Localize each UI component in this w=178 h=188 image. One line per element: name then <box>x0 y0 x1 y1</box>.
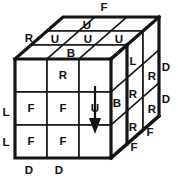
rubiks-cube-figure: R F F U F F U U U U B L R R R R B F R D … <box>0 0 178 188</box>
front-cell-r2c1: F <box>27 102 34 114</box>
edge-label-left-l-upper: L <box>2 106 9 118</box>
edge-label-bottom-d-right: D <box>55 164 63 176</box>
top-cell-r2c2: U <box>84 33 92 45</box>
right-cell-r2c2: R <box>148 103 157 115</box>
top-cell-r2c1: U <box>51 33 59 45</box>
cube-drawing: R F F U F F U U U U B L R R R R B F R D … <box>0 0 178 188</box>
edge-label-left-l-lower: L <box>2 136 9 148</box>
right-inner-cell-b: B <box>113 97 121 109</box>
right-cell-r2c1: R <box>129 88 138 100</box>
front-cell-r2c2: F <box>59 102 66 114</box>
front-cell-r3c2: F <box>59 135 66 147</box>
top-cell-r2c3: U <box>115 33 123 45</box>
front-cell-r1c2: R <box>59 69 68 81</box>
edge-label-lower-right-f-up: F <box>146 126 153 138</box>
right-cell-r1c1: L <box>129 55 136 67</box>
edge-label-lower-right-f-lo: F <box>130 141 137 153</box>
front-cell-r2c3: U <box>91 102 99 114</box>
right-cell-r1c2: R <box>148 70 157 82</box>
edge-label-bottom-d-left: D <box>25 164 33 176</box>
edge-label-right-d-upper: D <box>162 61 170 73</box>
right-cell-r3c1: R <box>129 121 138 133</box>
top-cell-r3c2: B <box>67 47 75 59</box>
top-cell-r1c2: U <box>83 19 91 31</box>
front-cell-r3c1: F <box>27 135 34 147</box>
edge-label-right-d-lower: D <box>162 93 170 105</box>
edge-label-top-f: F <box>100 1 107 13</box>
edge-label-upper-left-r: R <box>25 32 34 44</box>
